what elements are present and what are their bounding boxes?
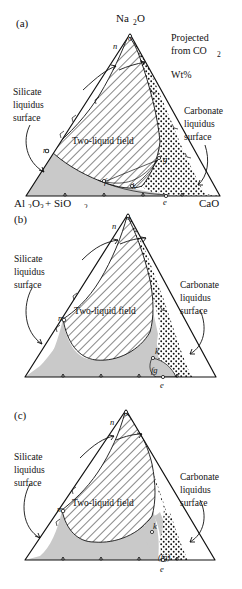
panel-a: (a) Na 2 O Projected from CO 2 Wt% Silic… bbox=[0, 0, 242, 208]
label-carbonate-liquidus-surface: Carbonate liquidus surface bbox=[180, 280, 219, 316]
carbonate-line2: liquidus bbox=[184, 119, 215, 129]
silicate-line3: surface bbox=[14, 478, 41, 488]
point-label-n: n bbox=[113, 41, 117, 51]
label-silicate-liquidus-surface: Silicate liquidus surface bbox=[14, 452, 45, 488]
carbonate-line3: surface bbox=[180, 498, 207, 508]
silicate-line2: liquidus bbox=[14, 465, 45, 475]
carbonate-line1: Carbonate bbox=[180, 472, 219, 482]
panel-a-tag: (a) bbox=[16, 17, 29, 30]
label-carbonate-liquidus-surface: Carbonate liquidus surface bbox=[184, 106, 223, 142]
point-label-n: n bbox=[110, 417, 114, 427]
two-liquid-field-region bbox=[62, 412, 155, 542]
silicate-line1: Silicate bbox=[14, 452, 43, 462]
label-two-liquid-field: Two-liquid field bbox=[74, 306, 136, 316]
carbonate-line3: surface bbox=[184, 132, 211, 142]
carbonate-line2: liquidus bbox=[180, 293, 211, 303]
panel-c: (c) Silicate liquidus surface Carbonate … bbox=[0, 388, 242, 589]
point-label-n: n bbox=[112, 221, 116, 231]
point-label-g: g bbox=[163, 154, 167, 164]
label-silicate-liquidus-surface: Silicate liquidus surface bbox=[14, 254, 45, 290]
panel-c-tag: (c) bbox=[14, 409, 27, 422]
figure-ternary-phase-diagrams: (a) Na 2 O Projected from CO 2 Wt% Silic… bbox=[0, 0, 242, 589]
label-carbonate-liquidus-surface: Carbonate liquidus surface bbox=[180, 472, 219, 508]
panel-b-tag: (b) bbox=[14, 213, 27, 226]
panel-b: (b) Silicate liquidus surface Carbonate … bbox=[0, 200, 242, 392]
note-projected-line2: from CO bbox=[171, 45, 207, 56]
point-label-e: e bbox=[160, 564, 164, 574]
note-units: Wt% bbox=[171, 69, 192, 80]
carbonate-line2: liquidus bbox=[180, 485, 211, 495]
silicate-line1: Silicate bbox=[14, 254, 43, 264]
silicate-line1: Silicate bbox=[13, 87, 42, 97]
label-two-liquid-field: Two-liquid field bbox=[72, 136, 134, 146]
label-silicate-liquidus-surface: Silicate liquidus surface bbox=[13, 87, 44, 123]
note-projected-sub: 2 bbox=[217, 50, 221, 59]
carbonate-line1: Carbonate bbox=[184, 106, 223, 116]
carbonate-line1: Carbonate bbox=[180, 280, 219, 290]
silicate-line3: surface bbox=[14, 280, 41, 290]
silicate-line2: liquidus bbox=[13, 100, 44, 110]
label-two-liquid-field: Two-liquid field bbox=[72, 498, 134, 508]
silicate-line2: liquidus bbox=[14, 267, 45, 277]
apex-na2o-main: Na bbox=[116, 12, 129, 24]
apex-na2o-tail: O bbox=[137, 12, 145, 24]
note-projected: Projected from CO 2 Wt% bbox=[171, 32, 221, 80]
note-projected-line1: Projected bbox=[171, 32, 209, 43]
point-label-k: k bbox=[155, 346, 159, 356]
carbonate-line3: surface bbox=[180, 306, 207, 316]
point-label-k: k bbox=[153, 521, 157, 531]
silicate-line3: surface bbox=[13, 113, 40, 123]
point-label-fg: fg bbox=[151, 365, 158, 375]
apex-label-na2o: Na 2 O bbox=[116, 12, 145, 27]
